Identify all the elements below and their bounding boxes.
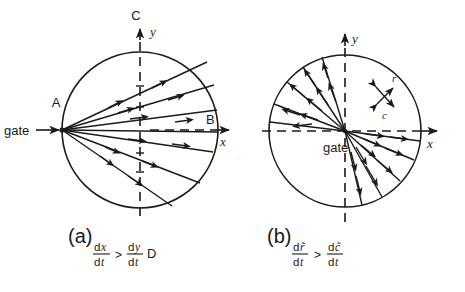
ray-arrow <box>309 100 322 111</box>
panel-a-inequality: d x d t > d y d t <box>93 241 143 268</box>
panel-a-label-y: y <box>148 24 156 39</box>
ray-arrow <box>303 115 318 120</box>
panel-b-legend-label-r: r <box>392 72 397 84</box>
panel-b-inequality: d r̃ d t > d c̃ d t <box>292 241 343 268</box>
panel-b: r c y x gate (b) d r̃ d t > d c̃ d t <box>262 31 437 268</box>
diagram-canvas: C y B x A D gate (a) d x d t > d y d t <box>0 0 465 292</box>
ray-arrow <box>105 147 117 152</box>
ray-arrow <box>142 161 155 166</box>
ray-arrow <box>175 120 190 122</box>
frac-a-left-num-d: d <box>94 241 100 253</box>
panel-b-label-x: x <box>426 136 433 151</box>
frac-a-right-num-var: y <box>134 241 141 254</box>
frac-b-left-num-d: d <box>293 241 299 253</box>
ray-arrow <box>366 134 381 136</box>
panel-a-label-C: C <box>131 8 140 23</box>
panel-a-ray <box>62 110 217 130</box>
frac-b-right-den-d: d <box>328 256 334 268</box>
ray-arrow <box>128 176 140 184</box>
ray-arrow <box>385 148 400 154</box>
ray-arrow <box>152 82 164 88</box>
ray-arrow <box>306 72 315 85</box>
ray-arrow <box>108 102 120 108</box>
panel-a-label-x: x <box>219 134 226 149</box>
panel-a-gate-label: gate <box>4 123 29 138</box>
frac-a-left-den-var: t <box>101 256 105 268</box>
panel-a-tag: (a) <box>68 225 92 247</box>
panel-a-source-point <box>59 127 64 132</box>
frac-b-operator: > <box>314 248 321 262</box>
ray-arrow <box>330 86 336 102</box>
ray-arrow <box>292 86 305 97</box>
panel-b-rays-lower-right <box>345 131 420 205</box>
panel-b-gate-label: gate <box>323 140 348 155</box>
ray-arrow <box>377 160 390 171</box>
frac-a-operator: > <box>115 248 122 262</box>
panel-a: C y B x A D gate (a) d x d t > d y d t <box>4 8 229 268</box>
ray-arrow <box>364 139 378 145</box>
panel-a-ray <box>62 130 218 132</box>
panel-b-rays-upper-left <box>270 57 345 131</box>
frac-a-right-den-d: d <box>128 256 134 268</box>
frac-b-left-den-d: d <box>293 256 299 268</box>
panel-a-ray <box>62 130 213 152</box>
panel-a-label-D: D <box>147 246 156 261</box>
panel-b-tag: (b) <box>267 225 291 247</box>
ray-arrow <box>100 156 111 164</box>
panel-a-ray <box>62 130 200 183</box>
frac-a-right-num-d: d <box>128 241 134 253</box>
panel-b-source-point <box>343 129 347 133</box>
ray-arrow <box>130 117 145 119</box>
ray-arrow <box>361 145 373 155</box>
panel-a-label-A: A <box>52 95 61 110</box>
panel-b-ray <box>345 131 400 181</box>
frac-b-left-num-var: r̃ <box>300 241 306 253</box>
ray-arrow <box>296 124 312 126</box>
ray-arrow <box>390 137 405 139</box>
panel-b-legend-label-c: c <box>382 109 387 121</box>
panel-a-ray <box>62 62 207 130</box>
figure-root: C y B x A D gate (a) d x d t > d y d t <box>0 0 465 292</box>
panel-a-label-B: B <box>206 112 215 127</box>
panel-b-label-y: y <box>350 31 358 46</box>
frac-a-left-den-d: d <box>94 256 100 268</box>
panel-a-ray <box>62 130 172 206</box>
ray-arrow <box>118 109 131 113</box>
frac-b-right-num-d: d <box>328 241 334 253</box>
ray-arrow <box>318 90 328 105</box>
frac-a-right-den-var: t <box>135 256 139 268</box>
panel-b-legend-cross: r c <box>376 72 397 121</box>
frac-b-right-num-var: c̃ <box>335 241 341 253</box>
frac-b-right-den-var: t <box>335 256 339 268</box>
frac-b-left-den-var: t <box>300 256 304 268</box>
frac-a-left-num-var: x <box>100 241 107 253</box>
ray-arrow <box>366 166 376 183</box>
panel-a-ray-arrowheads <box>100 82 190 184</box>
panel-b-ray <box>345 131 382 197</box>
